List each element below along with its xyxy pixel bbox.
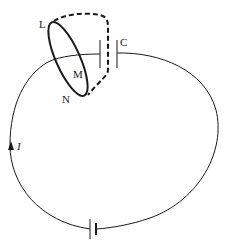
label-current: I (16, 140, 22, 152)
label-C: C (120, 36, 127, 48)
label-M: M (73, 68, 83, 80)
label-N: N (62, 93, 70, 105)
amperian-loop (41, 18, 95, 101)
label-L: L (39, 18, 46, 30)
circuit-diagram: L M N C I (0, 0, 227, 244)
circuit-wire-right (97, 53, 218, 229)
current-arrow-icon (8, 141, 14, 150)
